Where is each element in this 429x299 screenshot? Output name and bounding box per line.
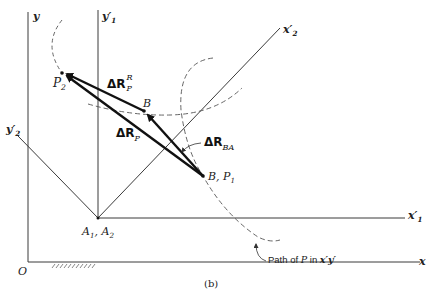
delta-R-P-R-sup: R [127,74,133,82]
point-P2 [60,71,64,75]
x2-prime-sub: 2 [292,29,297,38]
delta-R-P-R-sub: P [127,85,132,93]
y-axis-label: y [33,11,39,22]
x-axis-label: x [419,256,426,267]
P2-sub: 2 [61,83,66,92]
x1-prime-sub: 1 [417,215,422,224]
delta-R-P-vector [67,76,203,176]
path-label-leader [256,244,266,261]
relative-motion-diagram: y x O y′1 x′1 x′2 y′2 P2 B B, P1 A1, A2 … [0,0,429,299]
path-label-prefix: Path of [268,254,301,265]
y1-prime-label: y′1 [102,11,116,24]
delta-R-P-R-text: ΔR [107,77,126,91]
origin-label: O [18,266,27,277]
diagram-canvas [0,0,429,299]
y2-prime-label: y′2 [6,124,20,137]
delta-R-BA-leader [182,143,201,152]
x1-prime-label: x′1 [408,210,422,223]
ground-hatch [52,264,95,268]
B-P1-sub: 1 [230,176,235,185]
point-B-P1 [201,174,205,178]
y2-prime-axis [18,136,98,218]
path-label-mid: in [307,254,320,265]
delta-R-P-text: ΔR [116,126,135,140]
P2-label: P2 [53,77,66,92]
B-P1-text: B, P [208,170,230,183]
P2-letter: P [53,76,61,90]
x2-prime-axis [98,28,280,218]
y1-prime-sub: 1 [111,16,116,25]
path-of-P-label: Path of P in x′y′ [268,255,336,265]
delta-R-BA-vector [148,115,203,176]
A2-sep: , A [95,225,110,238]
B-label: B [143,98,151,109]
delta-R-BA-text: ΔR [204,135,223,149]
delta-R-BA-label: ΔRBA [204,136,234,148]
A1-letter: A [82,225,90,238]
A1-A2-label: A1, A2 [82,226,114,239]
delta-R-BA-sub: BA [223,143,235,152]
point-A1-A2 [97,217,100,220]
delta-R-P-R-label: ΔR R P [107,78,134,90]
B-P1-label: B, P1 [208,171,235,184]
figure-caption: (b) [204,278,218,289]
delta-R-P-label: ΔRP [116,127,140,139]
path-of-P-curve [52,20,62,73]
delta-R-P-sub: P [135,134,140,143]
x2-prime-label: x′2 [283,24,297,37]
path-label-frame: x′y′ [320,254,336,265]
y2-prime-sub: 2 [15,129,20,138]
A2-sub: 2 [109,231,114,240]
